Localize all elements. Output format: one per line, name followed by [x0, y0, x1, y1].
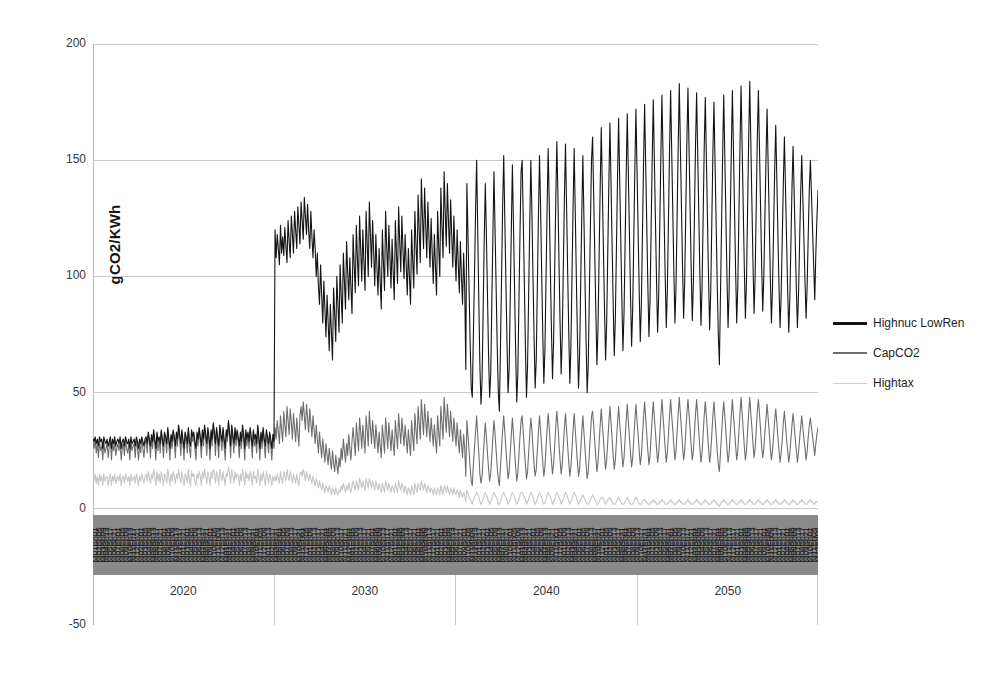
legend-color-swatch — [833, 322, 867, 325]
series-line-highnuc-lowren — [93, 81, 818, 448]
x-axis-category-band: M01Bh01M02Bh05M03Bh09M04Bh13M05Bh17M06Bh… — [93, 515, 818, 575]
x-year-label-2020: 2020 — [93, 575, 274, 625]
legend-item[interactable]: CapCO2 — [833, 338, 993, 368]
y-axis-tick-labels: 200150100500-50 — [40, 0, 86, 673]
chart-root: gCO2/KWh 200150100500-50 M01Bh01M02Bh05M… — [0, 0, 993, 673]
legend-label: Hightax — [873, 376, 914, 390]
x-year-label-2050: 2050 — [637, 575, 819, 625]
legend-label: Highnuc LowRen — [873, 316, 964, 330]
legend-label: CapCO2 — [873, 346, 920, 360]
y-tick-100: 100 — [40, 268, 86, 282]
x-year-label-2030: 2030 — [274, 575, 456, 625]
legend-item[interactable]: Highnuc LowRen — [833, 308, 993, 338]
chart-legend: Highnuc LowRenCapCO2Hightax — [833, 308, 993, 398]
legend-item[interactable]: Hightax — [833, 368, 993, 398]
y-tick-0: 0 — [40, 501, 86, 515]
y-tick--50: -50 — [40, 617, 86, 631]
y-tick-50: 50 — [40, 385, 86, 399]
series-line-hightax — [93, 467, 818, 507]
y-tick-200: 200 — [40, 36, 86, 50]
legend-color-swatch — [833, 383, 867, 384]
x-category-label: M12Eh09 — [816, 515, 818, 575]
x-axis-year-band: 2020203020402050 — [93, 575, 818, 625]
y-tick-150: 150 — [40, 152, 86, 166]
legend-color-swatch — [833, 352, 867, 354]
x-year-label-2040: 2040 — [455, 575, 637, 625]
